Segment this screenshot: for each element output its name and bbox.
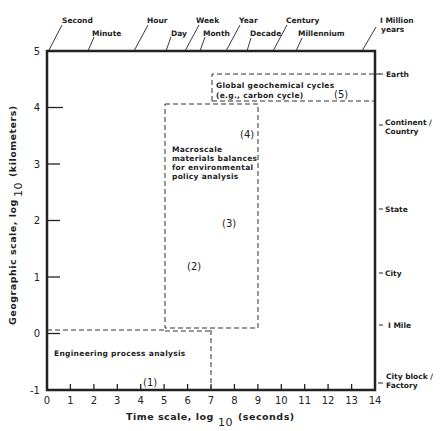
label-decade: Decade — [250, 29, 281, 38]
x-tick-14: 14 — [369, 395, 382, 406]
label-day: Day — [171, 29, 187, 38]
region-2-number: (2) — [187, 261, 201, 272]
x-axis-label-sub: 10 — [218, 416, 233, 429]
x-tick-5: 5 — [161, 395, 167, 406]
x-tick-6: 6 — [184, 395, 190, 406]
region-labels: Global geochemical cycles (e.g., carbon … — [54, 81, 335, 358]
label-century: Century — [286, 16, 320, 25]
x-tick-9: 9 — [255, 395, 261, 406]
x-tick-7: 7 — [208, 395, 214, 406]
label-millennium: Millennium — [298, 29, 345, 38]
label-factory: Factory — [386, 381, 418, 390]
label-hour: Hour — [147, 16, 168, 25]
engineering-boundary — [47, 330, 211, 390]
region-numbers: (1) (2) (3) (4) (5) — [143, 89, 348, 388]
macroscale-label-1: Macroscale — [172, 145, 222, 154]
x-tick-0: 0 — [44, 395, 50, 406]
y-tick-5: 5 — [34, 46, 40, 57]
region-boundaries — [47, 74, 380, 390]
macroscale-label-3: for environmental — [172, 163, 253, 172]
label-year: Year — [238, 16, 258, 25]
macroscale-label-4: policy analysis — [172, 172, 239, 181]
x-tick-4: 4 — [138, 395, 144, 406]
label-city-block: City block / — [386, 372, 433, 381]
x-tick-11: 11 — [298, 395, 311, 406]
y-axis-label-sub: 10 — [12, 182, 25, 197]
macroscale-label-2: materials balances — [172, 154, 258, 163]
x-axis-label-unit: (seconds) — [238, 411, 295, 422]
y-tick-1: 1 — [34, 272, 40, 283]
y-axis-label-main: Geographic scale, log — [7, 199, 18, 325]
region-3-number: (3) — [222, 218, 236, 229]
x-tick-2: 2 — [91, 395, 97, 406]
y-tick-0: 0 — [34, 328, 40, 339]
right-space-markers — [378, 74, 383, 383]
label-million-years-1: I Million — [380, 16, 414, 25]
label-earth: Earth — [386, 70, 409, 79]
label-city: City — [385, 269, 402, 278]
label-second: Second — [62, 16, 93, 25]
x-tick-12: 12 — [322, 395, 335, 406]
x-tick-8: 8 — [231, 395, 237, 406]
x-tick-10: 10 — [275, 395, 288, 406]
global-cycles-label: Global geochemical cycles — [216, 81, 335, 90]
y-axis-label-unit: (kilometers) — [7, 105, 18, 177]
label-month: Month — [203, 29, 230, 38]
label-state: State — [385, 205, 408, 214]
x-tick-1: 1 — [67, 395, 73, 406]
y-axis-ticks — [47, 108, 63, 334]
global-cycles-example: (e.g., carbon cycle) — [216, 91, 304, 100]
engineering-label: Engineering process analysis — [54, 349, 186, 358]
x-axis-label: Time scale, log 10 (seconds) — [126, 411, 295, 429]
y-tick-3: 3 — [34, 159, 40, 170]
region-1-number: (1) — [143, 377, 157, 388]
label-week: Week — [196, 16, 220, 25]
region-5-number: (5) — [334, 89, 348, 100]
label-country: Country — [385, 127, 419, 136]
x-axis-label-main: Time scale, log — [126, 411, 214, 422]
y-axis-label: Geographic scale, log 10 (kilometers) — [7, 105, 25, 325]
region-4-number: (4) — [240, 129, 254, 140]
top-time-labels: Second Minute Hour Day Week Month Year D… — [62, 16, 414, 38]
y-tick-minus1: -1 — [30, 385, 40, 396]
time-geographic-scale-chart: 0 1 2 3 4 5 6 7 8 9 10 11 12 13 14 -1 0 … — [0, 0, 443, 431]
y-tick-4: 4 — [34, 102, 40, 113]
label-minute: Minute — [92, 29, 121, 38]
right-space-labels: Earth Continent / Country State City I M… — [385, 70, 433, 390]
label-mile: I Mile — [388, 321, 411, 330]
y-tick-2: 2 — [34, 215, 40, 226]
y-tick-labels: -1 0 1 2 3 4 5 — [30, 46, 40, 396]
x-tick-3: 3 — [114, 395, 120, 406]
label-million-years-2: years — [381, 25, 405, 34]
x-tick-labels: 0 1 2 3 4 5 6 7 8 9 10 11 12 13 14 — [44, 395, 382, 406]
x-tick-13: 13 — [345, 395, 358, 406]
label-continent: Continent / — [385, 118, 432, 127]
